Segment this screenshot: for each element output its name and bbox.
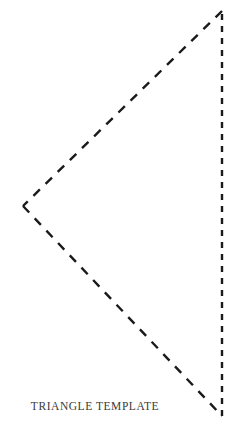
template-caption: TRIANGLE TEMPLATE	[0, 400, 190, 412]
triangle-template-drawing	[0, 0, 245, 432]
sheet-background	[0, 0, 245, 432]
template-sheet: TRIANGLE TEMPLATE	[0, 0, 245, 432]
